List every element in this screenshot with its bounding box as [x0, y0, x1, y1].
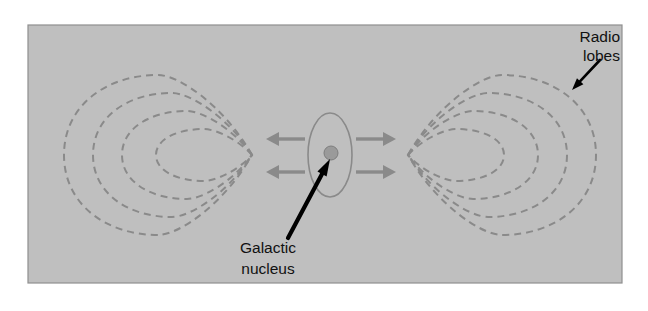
figure-root: Radio lobes Galactic nucleus: [0, 0, 648, 311]
nucleus-dot: [324, 146, 338, 160]
radio-lobes-label-line2: lobes: [583, 47, 620, 64]
galactic-nucleus-label-line1: Galactic: [240, 239, 296, 256]
radio-lobes-label-line1: Radio: [580, 28, 621, 45]
galactic-nucleus-label-line2: nucleus: [241, 260, 295, 277]
radio-galaxy-diagram: Radio lobes Galactic nucleus: [0, 0, 648, 311]
